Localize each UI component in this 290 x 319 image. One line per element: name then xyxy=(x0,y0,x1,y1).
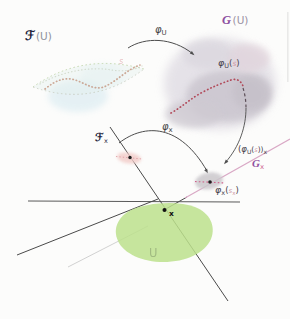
F-script: ℱ xyxy=(25,28,36,43)
phixsx-close: ) xyxy=(235,185,238,195)
section-s-text: s xyxy=(119,57,123,66)
phiUs-close: ) xyxy=(236,58,239,68)
F-paren: (U) xyxy=(36,30,52,42)
sheaf-G-sections-region xyxy=(164,38,276,130)
Fx-script: ℱ xyxy=(95,131,104,143)
phi-x-sub: x xyxy=(169,126,173,134)
phi-U-sub: U xyxy=(162,29,167,37)
cloud-tail xyxy=(165,100,221,128)
section-s-label: s xyxy=(119,57,123,66)
Gx-script: G xyxy=(252,157,260,169)
G-of-U-label: G(U) xyxy=(222,13,248,27)
diagram-canvas: s U xyxy=(0,0,290,319)
page-edge-shadow xyxy=(287,12,289,82)
germ-phix-sx-dot xyxy=(208,180,212,184)
Fx-sub: x xyxy=(104,137,108,145)
point-x-dot xyxy=(163,208,167,212)
G-paren: (U) xyxy=(233,14,249,26)
F-of-U-label: ℱ(U) xyxy=(25,28,52,43)
region-U-label: U xyxy=(149,246,157,260)
G-script: G xyxy=(222,13,231,27)
phi-U-s-at-x-label: (φU(s))x xyxy=(238,144,268,155)
figure-page: s U xyxy=(0,0,290,319)
point-x-label: x xyxy=(169,209,174,218)
point-x-text: x xyxy=(169,209,174,218)
phiUsx-subx: x xyxy=(264,148,268,155)
Gx-sub: x xyxy=(260,163,264,171)
region-U-text: U xyxy=(149,246,157,260)
germ-sx-dot xyxy=(128,156,131,159)
